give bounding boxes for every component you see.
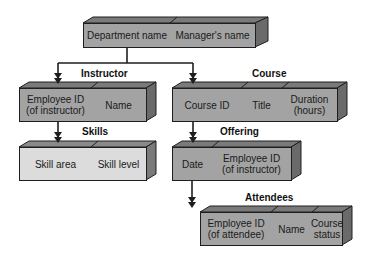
label-course: Course — [252, 68, 286, 79]
label-offering: Offering — [220, 126, 259, 137]
field-course-id: Course ID — [172, 88, 242, 122]
edge-course-offering — [189, 121, 197, 143]
field-skill-area: Skill area — [19, 147, 92, 181]
field-department-name: Department name — [83, 23, 171, 48]
field-attendee-name: Name — [271, 212, 313, 246]
edge-offering-attendees — [188, 180, 196, 208]
label-attendees: Attendees — [245, 192, 293, 203]
field-employee-id-offering: Employee ID (of instructor) — [212, 147, 292, 181]
field-title: Title — [241, 88, 283, 122]
field-employee-id-attendee: Employee ID (of attendee) — [200, 212, 272, 246]
field-name: Name — [91, 88, 147, 122]
field-employee-id-instructor: Employee ID (of instructor) — [19, 88, 92, 122]
field-course-status: Course status — [312, 212, 343, 246]
edge-instructor-skills — [54, 121, 62, 143]
label-instructor: Instructor — [81, 68, 128, 79]
field-duration: Duration (hours) — [282, 88, 338, 122]
field-date: Date — [172, 147, 213, 181]
label-skills: Skills — [82, 126, 108, 137]
field-skill-level: Skill level — [91, 147, 147, 181]
field-managers-name: Manager's name — [170, 23, 256, 48]
